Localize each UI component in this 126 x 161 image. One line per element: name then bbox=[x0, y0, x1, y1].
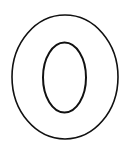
letter-o-graphic bbox=[0, 0, 126, 161]
inner-ellipse bbox=[43, 43, 86, 113]
letter-o-outline: O bbox=[0, 0, 126, 161]
